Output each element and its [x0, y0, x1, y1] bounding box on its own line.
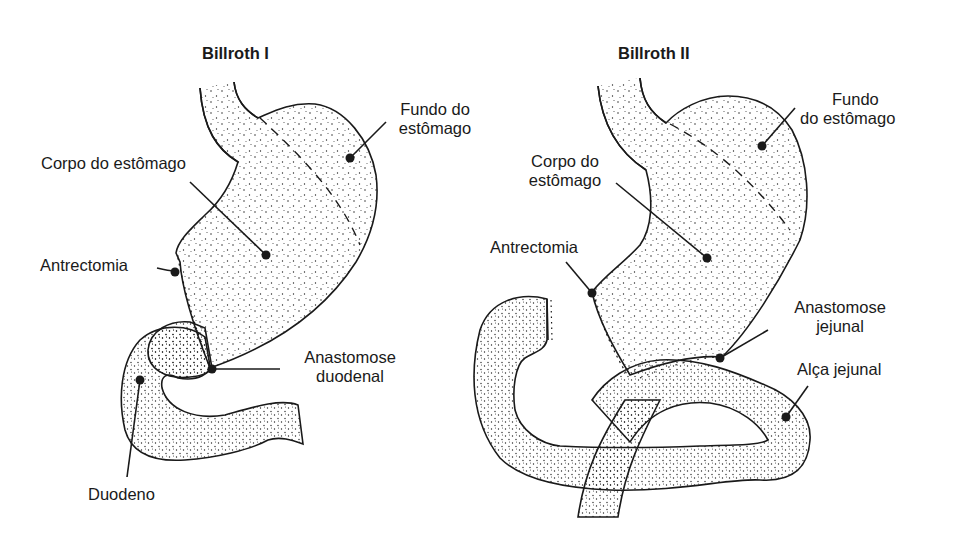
billroth-1-illustration [121, 82, 386, 477]
b2-antrectomy-label: Antrectomia [490, 238, 578, 257]
stomach-body-shape [176, 82, 377, 368]
b1-anastomosis-label: Anastomose duodenal [290, 348, 410, 386]
billroth-2-title: Billroth II [618, 44, 690, 63]
stomach-diagrams [0, 0, 956, 541]
b1-body-label: Corpo do estômago [41, 154, 186, 173]
b2-body-label: Corpo do estômago [510, 152, 620, 190]
b2-anastomosis-label: Anastomose jejunal [770, 298, 910, 336]
b2-fundus-label: Fundo do estômago [800, 90, 940, 128]
diagram-canvas: Billroth I Fundo do estômago Corpo do es… [0, 0, 956, 541]
b1-fundus-label: Fundo do estômago [380, 100, 490, 138]
billroth-2-illustration [474, 78, 810, 517]
b1-antrectomy-label: Antrectomia [40, 256, 128, 275]
b2-jejunal-loop-label: Alça jejunal [797, 360, 881, 379]
b1-duodenum-label: Duodeno [88, 485, 155, 504]
billroth-1-title: Billroth I [202, 44, 269, 63]
